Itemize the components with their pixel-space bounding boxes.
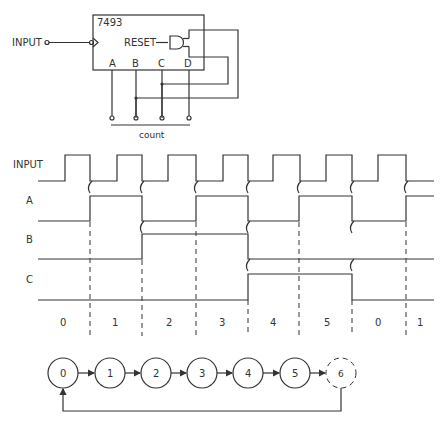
- timing-diagram: INPUT A B C 0 1 2 3 4: [13, 155, 434, 336]
- waveform-c: [38, 274, 434, 300]
- output-b-label: B: [132, 58, 139, 69]
- svg-text:4: 4: [245, 368, 251, 379]
- svg-text:5: 5: [292, 368, 298, 379]
- waveform-a: [38, 196, 434, 221]
- output-d-label: D: [184, 58, 192, 69]
- svg-text:4: 4: [270, 317, 276, 328]
- waveform-input: [38, 155, 434, 181]
- svg-text:6: 6: [338, 369, 344, 379]
- signal-label-input: INPUT: [13, 159, 44, 170]
- svg-text:1: 1: [107, 368, 113, 379]
- reset-label: RESET: [124, 37, 157, 48]
- svg-text:1: 1: [417, 317, 423, 328]
- output-d-terminal: [187, 116, 191, 120]
- svg-text:5: 5: [324, 317, 330, 328]
- and-gate-icon: [170, 36, 184, 49]
- mod6-counter-diagram: INPUT 7493 RESET A B C D count INPUT A B: [0, 0, 444, 425]
- junction-dot: [160, 82, 163, 85]
- output-a-terminal: [110, 116, 114, 120]
- input-label: INPUT: [12, 37, 43, 48]
- state-diagram: 0 1 2 3 4 5 6: [48, 358, 356, 411]
- svg-text:0: 0: [60, 368, 66, 379]
- waveform-b: [38, 234, 434, 259]
- count-label: count: [139, 130, 165, 140]
- svg-text:3: 3: [199, 368, 205, 379]
- svg-text:0: 0: [375, 317, 381, 328]
- chip-label: 7493: [97, 17, 122, 28]
- circuit-schematic: INPUT 7493 RESET A B C D count: [12, 15, 238, 140]
- svg-text:3: 3: [219, 317, 225, 328]
- output-c-label: C: [158, 58, 165, 69]
- svg-text:2: 2: [153, 368, 159, 379]
- junction-dot: [134, 96, 137, 99]
- signal-label-b: B: [26, 234, 33, 245]
- svg-text:0: 0: [60, 317, 66, 328]
- output-a-label: A: [109, 58, 116, 69]
- count-value-labels: 0 1 2 3 4 5 0 1: [60, 317, 423, 328]
- signal-label-a: A: [26, 195, 33, 206]
- signal-label-c: C: [26, 274, 33, 285]
- input-terminal: [45, 41, 49, 45]
- svg-text:2: 2: [166, 317, 172, 328]
- reset-feedback-arrow: [63, 388, 341, 411]
- svg-text:1: 1: [112, 317, 118, 328]
